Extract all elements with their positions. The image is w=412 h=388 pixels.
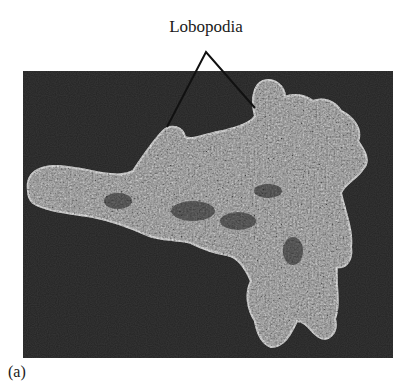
lobopodia-label: Lobopodia <box>0 17 412 37</box>
panel-label: (a) <box>8 363 26 381</box>
micrograph-image <box>23 71 393 358</box>
